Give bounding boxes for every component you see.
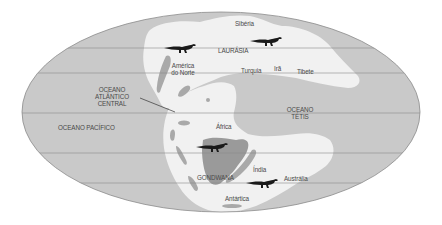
label-iran: Irã — [274, 65, 281, 72]
inland-sea-atlantic-2 — [178, 121, 190, 126]
label-tethys-line2: TÉTIS — [285, 113, 315, 120]
label-north-america-line1: América — [168, 62, 198, 69]
label-siberia: Sibéria — [235, 20, 254, 27]
label-gondwana: GONDWANA — [197, 174, 234, 181]
label-tethys-line1: OCEANO — [285, 106, 315, 113]
label-africa: África — [216, 123, 232, 130]
label-india: Índia — [253, 166, 266, 173]
label-north-america: América do Norte — [168, 62, 198, 76]
label-pacific-ocean: OCEANO PACÍFICO — [58, 124, 115, 131]
label-laurasia: LAURÁSIA — [218, 47, 248, 54]
label-tibet: Tibete — [297, 68, 314, 75]
label-north-america-line2: do Norte — [168, 69, 198, 76]
paleogeographic-map — [0, 0, 442, 225]
small-island — [206, 98, 210, 102]
label-atlantic-line3: CENTRAL — [94, 100, 130, 107]
label-turkey: Turquia — [241, 67, 261, 74]
label-atlantic-line2: ATLÂNTICO — [94, 93, 130, 100]
label-antarctica: Antártica — [225, 195, 249, 202]
label-australia: Austrália — [284, 175, 308, 182]
label-atlantic-ocean: OCEANO ATLÂNTICO CENTRAL — [94, 86, 130, 107]
label-tethys-ocean: OCEANO TÉTIS — [285, 106, 315, 120]
antarctica-sea — [222, 204, 242, 208]
label-atlantic-line1: OCEANO — [94, 86, 130, 93]
